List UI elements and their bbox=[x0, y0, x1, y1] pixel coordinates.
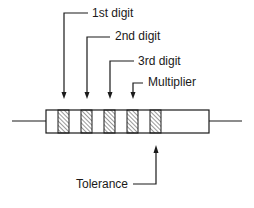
leader-multiplier bbox=[131, 83, 144, 99]
leader-2nd-digit bbox=[85, 37, 111, 99]
band-2nd-digit bbox=[81, 110, 92, 133]
band-3rd-digit bbox=[104, 110, 115, 133]
label-1st-digit: 1st digit bbox=[92, 7, 133, 19]
label-3rd-digit: 3rd digit bbox=[138, 55, 181, 67]
band-tolerance bbox=[150, 110, 161, 133]
band-1st-digit bbox=[58, 110, 69, 133]
label-2nd-digit: 2nd digit bbox=[115, 30, 160, 42]
leader-1st-digit bbox=[62, 13, 89, 99]
leader-tolerance bbox=[133, 145, 159, 184]
leader-3rd-digit bbox=[108, 61, 135, 99]
label-multiplier: Multiplier bbox=[148, 76, 196, 88]
resistor-color-code-diagram: 1st digit 2nd digit 3rd digit Multiplier… bbox=[0, 0, 254, 208]
label-tolerance: Tolerance bbox=[76, 178, 128, 190]
band-multiplier bbox=[127, 110, 138, 133]
